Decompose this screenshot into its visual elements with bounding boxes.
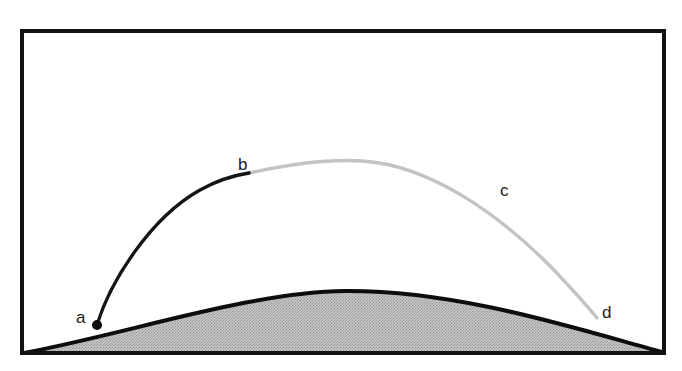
label-d: d bbox=[602, 303, 611, 322]
label-b: b bbox=[238, 155, 247, 174]
figure-container: a b c d bbox=[0, 0, 682, 371]
point-a-dot bbox=[92, 320, 102, 330]
label-c: c bbox=[500, 181, 509, 200]
figure-canvas: a b c d bbox=[0, 0, 682, 371]
label-a: a bbox=[76, 308, 86, 327]
